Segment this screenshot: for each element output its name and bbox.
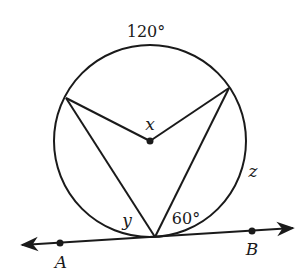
angle-left-label: y [121, 210, 132, 230]
center-angle-label: x [145, 114, 155, 134]
radius-right [150, 88, 229, 141]
arc-right-label: z [248, 161, 259, 181]
arc-top-label: 120° [127, 22, 166, 41]
point-b-label: B [245, 239, 259, 259]
geometry-diagram: 120° x z y 60° A B [0, 0, 305, 280]
center-point [147, 138, 154, 145]
chord-left [66, 98, 155, 237]
point-a-label: A [53, 252, 67, 272]
diagram-canvas: 120° x z y 60° A B [0, 0, 305, 280]
angle-right-label: 60° [172, 209, 200, 228]
point-b-dot [249, 228, 256, 235]
point-a-dot [57, 240, 64, 247]
